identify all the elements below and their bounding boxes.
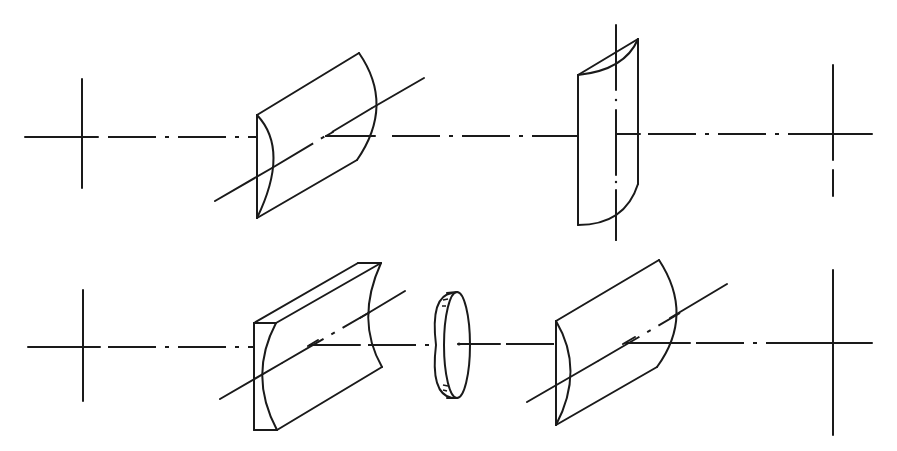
top-cylindrical-lens-2	[578, 25, 638, 240]
bottom-row	[28, 230, 872, 435]
top-optical-axis	[25, 134, 872, 137]
bottom-optical-axis	[28, 343, 872, 347]
optical-diagram: Two optical arrangements drawn along das…	[0, 0, 897, 451]
bottom-cylindrical-lens-concave	[220, 263, 405, 430]
top-row	[25, 25, 872, 240]
